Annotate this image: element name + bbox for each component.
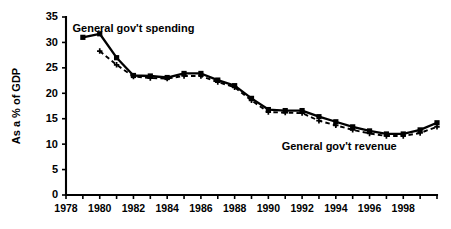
x-tick-label: 1998 [392,202,416,214]
chart-axes [66,17,437,195]
x-tick-label: 1992 [290,202,314,214]
x-tick-label: 1988 [223,202,247,214]
y-axis-tick-labels: 05101520253035 [46,10,58,200]
series-line [100,51,437,136]
y-axis-title-text: As a % of GDP [10,68,22,144]
chart-plot: 05101520253035 1978198019821984198619881… [0,0,451,229]
chart-container: 05101520253035 1978198019821984198619881… [0,0,451,229]
x-axis-tick-labels: 1978198019821984198619881990199219941996… [54,202,415,214]
y-tick-label: 20 [46,87,58,99]
y-tick-label: 10 [46,138,58,150]
x-tick-label: 1986 [189,202,213,214]
x-tick-label: 1984 [156,202,180,214]
y-tick-label: 0 [52,188,58,200]
y-tick-label: 30 [46,36,58,48]
chart-series-group [80,31,439,139]
x-tick-label: 1994 [324,202,348,214]
series-spending [80,31,439,136]
series-revenue [97,48,440,138]
spending-series-label: General gov't spending [73,22,195,34]
x-tick-label: 1978 [54,202,78,214]
revenue-series-label: General gov't revenue [282,140,397,152]
x-tick-label: 1996 [358,202,382,214]
y-tick-label: 15 [46,112,58,124]
y-axis-title: As a % of GDP [10,68,22,144]
y-tick-label: 35 [46,10,58,22]
x-tick-label: 1990 [257,202,281,214]
y-tick-label: 25 [46,61,58,73]
y-tick-label: 5 [52,163,58,175]
data-point-marker [114,55,119,60]
data-point-marker [80,35,85,40]
axis-lines [66,17,437,195]
x-tick-label: 1982 [122,202,146,214]
series-line [83,34,437,134]
x-tick-label: 1980 [88,202,112,214]
